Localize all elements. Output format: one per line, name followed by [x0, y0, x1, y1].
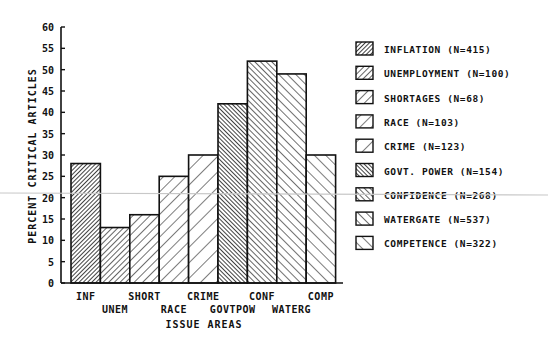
legend: INFLATION (N=415)UNEMPLOYMENT (N=100)SHO… [356, 42, 510, 249]
legend-label: RACE (N=103) [384, 117, 460, 128]
legend-swatch [356, 236, 373, 249]
x-tick-label: GOVTPOW [210, 304, 256, 315]
legend-swatch [356, 115, 373, 128]
x-axis-labels: INFUNEMSHORTRACECRIMEGOVTPOWCONFWATERGCO… [76, 291, 334, 315]
bar-waterg [277, 74, 306, 283]
y-tick-label: 25 [42, 171, 54, 182]
x-tick-label: WATERG [272, 304, 311, 315]
legend-label: UNEMPLOYMENT (N=100) [384, 68, 510, 79]
x-tick-label: UNEM [102, 304, 128, 315]
y-tick-label: 50 [42, 65, 54, 76]
legend-label: INFLATION (N=415) [384, 44, 491, 55]
x-axis-title: ISSUE AREAS [165, 319, 242, 330]
x-tick-label: SHORT [128, 291, 161, 302]
legend-swatch [356, 212, 373, 225]
legend-swatch [356, 91, 373, 104]
y-tick-label: 20 [42, 193, 54, 204]
x-tick-label: CRIME [187, 291, 220, 302]
legend-swatch [356, 139, 373, 152]
legend-label: CRIME (N=123) [384, 141, 466, 152]
y-tick-label: 60 [42, 22, 54, 33]
legend-label: WATERGATE (N=537) [384, 214, 491, 225]
bars-group [71, 61, 336, 283]
legend-swatch [356, 66, 373, 79]
legend-label: SHORTAGES (N=68) [384, 93, 485, 104]
bar-inf [71, 164, 100, 283]
legend-swatch [356, 164, 373, 177]
bar-comp [306, 155, 335, 283]
y-tick-label: 45 [42, 86, 54, 97]
y-tick-label: 10 [42, 235, 54, 246]
y-tick-label: 30 [42, 150, 54, 161]
x-tick-label: INF [76, 291, 96, 302]
y-tick-label: 40 [42, 107, 54, 118]
y-tick-label: 0 [48, 278, 54, 289]
y-tick-label: 5 [48, 257, 54, 268]
bar-short [130, 215, 159, 283]
legend-label: GOVT. POWER (N=154) [384, 166, 504, 177]
bar-unem [100, 228, 129, 283]
x-tick-label: CONF [249, 291, 275, 302]
y-axis-title: PERCENT CRITICAL ARTICLES [27, 68, 38, 244]
bar-conf [247, 61, 276, 283]
y-tick-label: 15 [42, 214, 54, 225]
x-tick-label: RACE [161, 304, 187, 315]
x-tick-label: COMP [308, 291, 334, 302]
legend-label: COMPETENCE (N=322) [384, 238, 498, 249]
bar-race [159, 176, 188, 283]
bar-chart: 051015202530354045505560 INFUNEMSHORTRAC… [0, 0, 548, 347]
y-tick-label: 35 [42, 129, 54, 140]
bar-crime [189, 155, 218, 283]
y-tick-label: 55 [42, 43, 54, 54]
legend-swatch [356, 42, 373, 55]
